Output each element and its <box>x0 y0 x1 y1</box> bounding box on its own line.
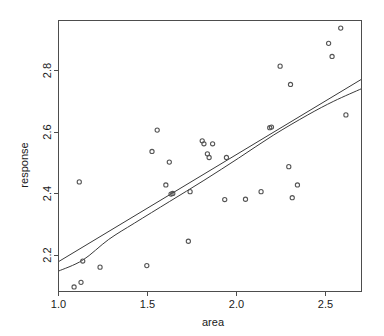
x-axis-title: area <box>202 316 225 328</box>
scatter-plot: 2.8 2.6 2.4 2.2 response 1.0 1.5 2.0 2.5… <box>0 0 384 336</box>
x-tick-label-2.5: 2.5 <box>318 298 333 310</box>
plot-background <box>0 0 384 336</box>
y-axis-title: response <box>18 142 30 187</box>
chart-container: 2.8 2.6 2.4 2.2 response 1.0 1.5 2.0 2.5… <box>0 0 384 336</box>
x-tick-label-1.0: 1.0 <box>51 298 66 310</box>
y-tick-label-2.4: 2.4 <box>41 186 53 201</box>
y-tick-label-2.8: 2.8 <box>41 63 53 78</box>
y-tick-label-2.6: 2.6 <box>41 124 53 139</box>
x-tick-label-1.5: 1.5 <box>140 298 155 310</box>
y-tick-label-2.2: 2.2 <box>41 247 53 262</box>
x-tick-label-2.0: 2.0 <box>229 298 244 310</box>
